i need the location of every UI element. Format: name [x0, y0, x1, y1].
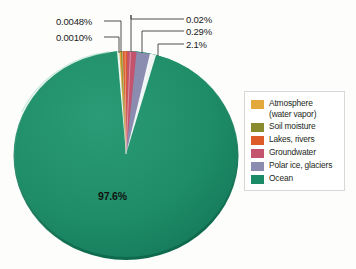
- leader-soil-moisture: [104, 21, 121, 52]
- pie-chart-figure: 0.0048% 0.0010% 0.02% 0.29% 2.1% 97.6% A…: [0, 0, 356, 269]
- legend-item-soil-moisture: Soil moisture: [251, 121, 339, 132]
- legend-swatch-ocean: [251, 175, 264, 184]
- legend-label-groundwater: Groundwater: [269, 147, 316, 158]
- chart-legend: Atmosphere (water vapor) Soil moisture L…: [244, 91, 345, 191]
- legend-item-atmosphere: Atmosphere (water vapor): [251, 98, 339, 119]
- legend-label-polar-ice: Polar ice, glaciers: [269, 160, 332, 171]
- legend-label-atmosphere-sub: (water vapor): [269, 109, 316, 120]
- callout-label-soil-moisture: 0.0048%: [56, 17, 92, 27]
- legend-label-ocean: Ocean: [269, 173, 293, 184]
- legend-swatch-polar-ice: [251, 162, 264, 171]
- callout-label-atmosphere: 0.0010%: [56, 33, 92, 43]
- legend-label-soil-moisture: Soil moisture: [269, 121, 315, 132]
- legend-item-ocean: Ocean: [251, 173, 339, 184]
- leader-lakes-rivers: [131, 15, 184, 52]
- callout-label-groundwater: 0.29%: [186, 27, 212, 37]
- legend-item-polar-ice: Polar ice, glaciers: [251, 160, 339, 171]
- legend-swatch-groundwater: [251, 149, 264, 158]
- pie-center-value-ocean: 97.6%: [98, 190, 127, 202]
- legend-label-atmosphere-main: Atmosphere: [269, 98, 313, 108]
- leader-polar-ice: [158, 44, 184, 56]
- legend-label-lakes-rivers: Lakes, rivers: [269, 134, 315, 145]
- leader-groundwater: [142, 31, 184, 53]
- callout-label-lakes-rivers: 0.02%: [186, 15, 212, 25]
- legend-swatch-lakes-rivers: [251, 136, 264, 145]
- leader-atmosphere: [104, 37, 119, 53]
- legend-item-lakes-rivers: Lakes, rivers: [251, 134, 339, 145]
- callout-label-polar-ice: 2.1%: [186, 40, 207, 50]
- legend-swatch-atmosphere: [251, 100, 264, 109]
- legend-item-groundwater: Groundwater: [251, 147, 339, 158]
- legend-label-atmosphere: Atmosphere (water vapor): [269, 98, 316, 119]
- callout-leader-lines: [104, 15, 184, 56]
- legend-swatch-soil-moisture: [251, 123, 264, 132]
